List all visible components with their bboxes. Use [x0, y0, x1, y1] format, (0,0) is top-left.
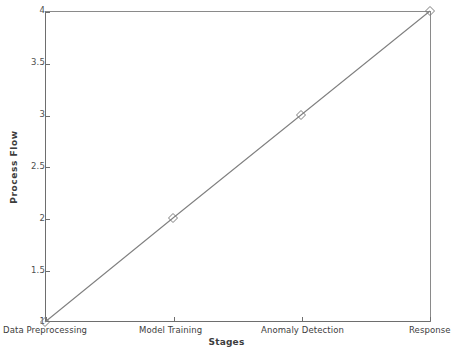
x-tick-label-data-preprocessing: Data Preprocessing	[3, 325, 87, 335]
x-tick-mark-3	[302, 317, 303, 321]
y-tick-mark-4	[46, 12, 50, 13]
x-tick-label-response: Response	[409, 325, 451, 335]
y-tick-mark-1	[46, 321, 50, 322]
y-tick-label-3-5: 3.5	[31, 58, 45, 67]
x-tick-label-anomaly-detection: Anomaly Detection	[261, 325, 344, 335]
x-tick-label-model-training: Model Training	[139, 325, 202, 335]
x-axis-title: Stages	[0, 337, 453, 347]
y-tick-mark-2-5	[46, 167, 50, 168]
y-tick-mark-3	[46, 116, 50, 117]
y-axis-title: Process Flow	[9, 130, 19, 203]
y-tick-label-2-5: 2.5	[31, 162, 45, 171]
y-tick-mark-2	[46, 219, 50, 220]
chart-figure: Process Flow 4 3.5 3 2.5 2 1.5 1 Data Pr…	[0, 0, 453, 352]
y-tick-mark-3-5	[46, 64, 50, 65]
y-tick-label-1-5: 1.5	[31, 266, 45, 275]
x-tick-mark-2	[174, 317, 175, 321]
y-tick-mark-1-5	[46, 271, 50, 272]
x-tick-mark-1	[46, 317, 47, 321]
y-axis-title-container: Process Flow	[6, 0, 22, 333]
x-tick-mark-4	[430, 317, 431, 321]
plot-area	[45, 11, 431, 322]
